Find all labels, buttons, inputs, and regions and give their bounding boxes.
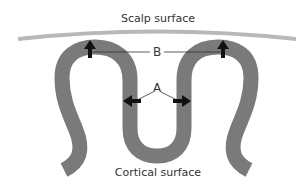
marker-a-label: A (153, 81, 162, 95)
cortical-surface-label: Cortical surface (115, 166, 202, 179)
scalp-surface-line (18, 32, 296, 40)
scalp-surface-label: Scalp surface (121, 12, 195, 25)
leader-line-a-right (161, 92, 177, 100)
cortex-diagram: Scalp surface B A Cortical surface (0, 0, 308, 185)
leader-line-a-left (137, 92, 153, 100)
cortex-band (62, 47, 251, 170)
marker-b-label: B (153, 45, 161, 59)
